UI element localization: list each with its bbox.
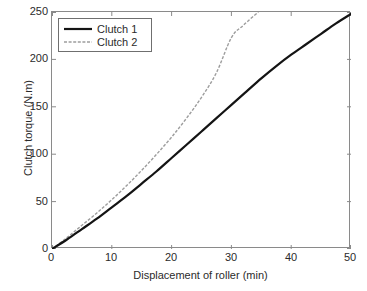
figure: 250 200 150 100 50 0 0 10 20 30 40 50 Di… [0,0,367,291]
legend-item-clutch-1: Clutch 1 [63,22,147,35]
legend: Clutch 1 Clutch 2 [58,18,152,52]
xtick-label-50: 50 [330,252,367,263]
legend-label-clutch-2: Clutch 2 [93,36,137,48]
legend-label-clutch-1: Clutch 1 [93,23,137,35]
xtick-label-10: 10 [91,252,131,263]
xtick-label-20: 20 [151,252,191,263]
y-axis-label: Clutch torque (N.m) [22,38,34,218]
x-axis-label: Displacement of roller (min) [51,269,350,281]
xtick-label-40: 40 [271,252,311,263]
legend-line-icon-clutch-1 [63,23,93,35]
xtick-label-30: 30 [211,252,251,263]
legend-line-icon-clutch-2 [63,36,93,48]
legend-item-clutch-2: Clutch 2 [63,35,147,48]
xtick-label-0: 0 [31,252,71,263]
ytick-label-250: 250 [8,6,48,17]
